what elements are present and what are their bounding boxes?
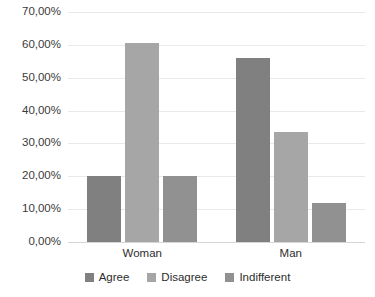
x-axis-tick-label: Woman [123,247,162,259]
bar[interactable] [312,203,346,242]
legend-label: Disagree [161,272,207,284]
y-axis-tick-label: 30,00% [0,138,61,150]
y-axis-tick-label: 20,00% [0,171,61,183]
y-axis-tick-label: 40,00% [0,105,61,117]
legend-item-disagree[interactable]: Disagree [147,272,207,284]
y-axis-tick-label: 10,00% [0,203,61,215]
legend-swatch-icon [85,273,94,282]
y-axis-tick-label: 50,00% [0,72,61,84]
legend-item-agree[interactable]: Agree [85,272,130,284]
gridline [68,45,365,46]
gridline [68,111,365,112]
bar[interactable] [163,176,197,242]
legend-label: Agree [99,272,130,284]
x-axis-tick-label: Man [280,247,302,259]
plot-area [68,12,365,242]
bar[interactable] [236,58,270,242]
gridline [68,143,365,144]
chart-legend: Agree Disagree Indifferent [0,272,375,284]
legend-swatch-icon [225,273,234,282]
gridline [68,242,365,243]
bar-chart: 70,00% 60,00% 50,00% 40,00% 30,00% 20,00… [0,0,375,297]
gridline [68,12,365,13]
y-axis-tick-label: 60,00% [0,39,61,51]
legend-item-indifferent[interactable]: Indifferent [225,272,290,284]
gridline [68,78,365,79]
bar[interactable] [274,132,308,242]
legend-swatch-icon [147,273,156,282]
bar[interactable] [87,176,121,242]
y-axis-tick-label: 70,00% [0,6,61,18]
bar[interactable] [125,43,159,242]
legend-label: Indifferent [239,272,290,284]
y-axis-tick-label: 0,00% [0,236,61,248]
